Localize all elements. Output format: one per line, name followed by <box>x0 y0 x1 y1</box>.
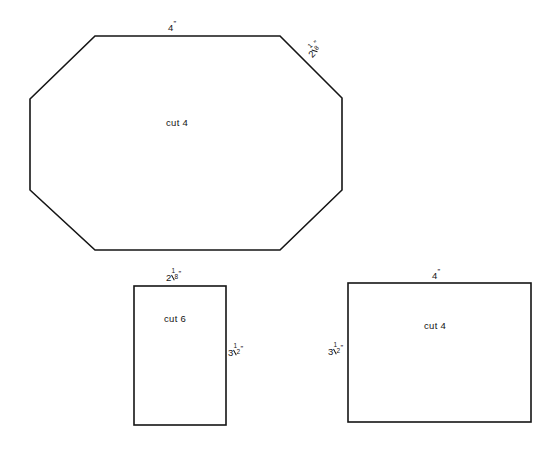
octagon-cut-label: cut 4 <box>166 118 188 128</box>
large-rectangle-width-dimension: 4” <box>432 269 440 281</box>
large-rectangle-cut-label: cut 4 <box>424 321 446 331</box>
octagon-piece-outline[interactable] <box>30 36 342 250</box>
small-rectangle-height-dimension: 312” <box>228 346 243 358</box>
inch-mark: ” <box>437 267 439 276</box>
small-rectangle-piece-outline[interactable] <box>134 286 226 425</box>
inch-mark: ” <box>240 344 242 353</box>
inch-mark: ” <box>340 343 342 352</box>
pattern-diagram: 4” 218” cut 4 218” cut 6 312” 4” cut 4 3… <box>0 0 560 450</box>
inch-mark: ” <box>173 19 175 28</box>
shape-layer <box>0 0 560 450</box>
inch-mark: ” <box>178 269 180 278</box>
octagon-top-width-dimension: 4” <box>168 21 176 33</box>
large-rectangle-height-dimension: 312” <box>328 345 343 357</box>
large-rectangle-piece-outline[interactable] <box>348 283 531 422</box>
small-rectangle-width-dimension: 218” <box>166 271 181 283</box>
small-rectangle-cut-label: cut 6 <box>164 314 186 324</box>
